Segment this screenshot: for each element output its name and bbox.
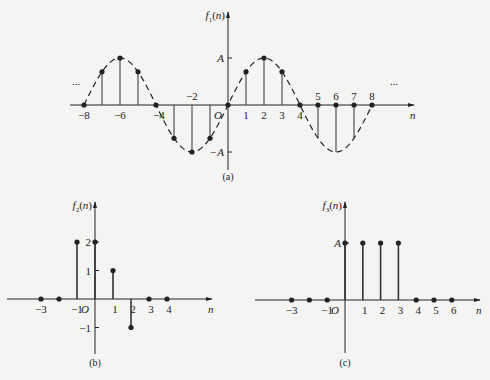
- panel-caption: (a): [222, 171, 233, 183]
- x-tick-label: −1: [71, 303, 83, 315]
- data-point: [207, 136, 212, 141]
- data-point: [297, 102, 302, 107]
- data-point: [56, 296, 61, 301]
- data-point: [315, 102, 320, 107]
- data-point: [189, 149, 194, 154]
- panel-c-f3-plot: nf3(n)O(c)A−3−1123456: [255, 199, 482, 369]
- data-point: [110, 268, 115, 273]
- data-point: [342, 240, 347, 245]
- data-point: [325, 297, 330, 302]
- x-tick-label: 2: [261, 109, 267, 121]
- data-point: [307, 297, 312, 302]
- panel-b-f2-plot: nf2(n)O(b)21−1−3−11234: [7, 199, 214, 369]
- x-tick-label: 7: [351, 90, 357, 102]
- x-tick-label: −1: [321, 304, 333, 316]
- x-tick-label: 1: [112, 303, 118, 315]
- data-point: [243, 69, 248, 74]
- data-point: [360, 240, 365, 245]
- x-tick-label: −6: [114, 109, 126, 121]
- x-tick-label: 6: [333, 90, 339, 102]
- panel-a-f1-plot: nf1(n)O(a)A−A......−8−6−41234−25678: [70, 9, 416, 183]
- x-tick-label: −2: [186, 90, 198, 102]
- stem-plots-svg: nf1(n)O(a)A−A......−8−6−41234−25678 nf2(…: [0, 0, 490, 380]
- x-tick-label: 5: [433, 304, 439, 316]
- x-tick-label: −3: [286, 304, 298, 316]
- data-point: [351, 102, 356, 107]
- x-tick-label: 8: [369, 90, 375, 102]
- y-tick-label: −A: [210, 146, 224, 158]
- data-point: [333, 102, 338, 107]
- figure: nf1(n)O(a)A−A......−8−6−41234−25678 nf2(…: [0, 0, 490, 380]
- x-tick-label: −8: [78, 109, 90, 121]
- data-point: [289, 297, 294, 302]
- x-tick-label: 5: [315, 90, 321, 102]
- x-tick-label: 3: [148, 303, 154, 315]
- y-tick-label: A: [216, 52, 224, 64]
- data-point: [414, 297, 419, 302]
- data-point: [153, 102, 158, 107]
- data-point: [431, 297, 436, 302]
- continuation-right: ...: [390, 75, 399, 87]
- data-point: [99, 69, 104, 74]
- y-tick-label: 1: [86, 265, 92, 277]
- x-tick-label: 6: [451, 304, 457, 316]
- data-point: [261, 55, 266, 60]
- data-point: [369, 102, 374, 107]
- data-point: [449, 297, 454, 302]
- x-tick-label: 1: [362, 304, 368, 316]
- y-axis-label: f3(n): [323, 199, 343, 214]
- x-tick-label: 4: [297, 109, 303, 121]
- data-point: [38, 296, 43, 301]
- y-tick-label: A: [333, 237, 341, 249]
- x-tick-label: 2: [380, 304, 386, 316]
- y-axis-label: f1(n): [206, 9, 226, 24]
- data-point: [225, 102, 230, 107]
- x-axis-label: n: [476, 304, 482, 316]
- x-tick-label: 3: [398, 304, 404, 316]
- data-point: [396, 240, 401, 245]
- data-point: [279, 69, 284, 74]
- continuation-left: ...: [72, 75, 81, 87]
- x-tick-label: 1: [243, 109, 249, 121]
- y-tick-label: 2: [86, 236, 92, 248]
- data-point: [164, 296, 169, 301]
- data-point: [92, 239, 97, 244]
- data-point: [135, 69, 140, 74]
- data-point: [171, 136, 176, 141]
- x-tick-label: 4: [166, 303, 172, 315]
- data-point: [146, 296, 151, 301]
- data-point: [128, 325, 133, 330]
- y-axis-label: f2(n): [73, 199, 93, 214]
- x-axis-label: n: [410, 109, 416, 121]
- origin-label: O: [214, 109, 222, 121]
- data-point: [81, 102, 86, 107]
- x-axis-label: n: [208, 303, 214, 315]
- x-tick-label: −3: [35, 303, 47, 315]
- x-tick-label: −4: [153, 109, 165, 121]
- data-point: [378, 240, 383, 245]
- x-tick-label: 4: [415, 304, 421, 316]
- data-point: [74, 239, 79, 244]
- y-tick-label: −1: [79, 322, 91, 334]
- panel-caption: (c): [339, 357, 350, 369]
- x-tick-label: 3: [279, 109, 285, 121]
- data-point: [117, 55, 122, 60]
- panel-caption: (b): [89, 357, 101, 369]
